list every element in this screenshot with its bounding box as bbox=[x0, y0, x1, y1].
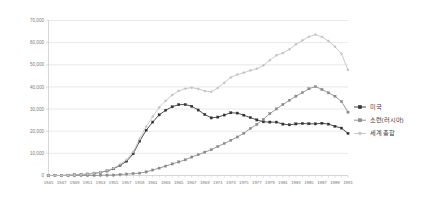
data-point-marker bbox=[327, 123, 329, 125]
data-point-marker bbox=[152, 169, 154, 171]
data-point-marker bbox=[171, 163, 173, 165]
data-point-marker bbox=[340, 127, 342, 129]
data-point-marker bbox=[288, 99, 290, 101]
data-point-marker bbox=[191, 156, 193, 158]
data-point-marker bbox=[210, 117, 212, 119]
y-axis-tick-label: 70,000 bbox=[30, 18, 44, 23]
data-point-marker bbox=[282, 103, 284, 105]
data-point-marker bbox=[249, 127, 251, 129]
legend-label: 미국 bbox=[370, 103, 382, 111]
y-axis-tick-label: 0 bbox=[41, 173, 44, 178]
x-axis-tick-label: 1957 bbox=[122, 180, 132, 185]
x-axis-tick-label: 1969 bbox=[200, 180, 210, 185]
data-point-marker bbox=[236, 112, 238, 114]
data-point-marker bbox=[301, 91, 303, 93]
x-axis-tick-label: 1945 bbox=[44, 180, 54, 185]
data-point-marker bbox=[178, 104, 180, 106]
x-axis-tick-label: 1991 bbox=[343, 180, 353, 185]
y-axis-tick-label: 20,000 bbox=[30, 129, 44, 134]
data-point-marker bbox=[145, 171, 147, 173]
data-point-marker bbox=[262, 121, 264, 123]
data-point-marker bbox=[327, 92, 329, 94]
x-axis-tick-label: 1989 bbox=[330, 180, 340, 185]
y-axis-tick-label: 40,000 bbox=[30, 85, 44, 90]
data-point-marker bbox=[301, 122, 303, 124]
y-axis-tick-label: 50,000 bbox=[30, 62, 44, 67]
data-point-marker bbox=[125, 173, 127, 175]
x-axis-tick-label: 1947 bbox=[57, 180, 67, 185]
data-point-marker bbox=[197, 154, 199, 156]
data-point-marker bbox=[210, 149, 212, 151]
data-point-marker bbox=[171, 106, 173, 108]
data-point-marker bbox=[314, 123, 316, 125]
data-point-marker bbox=[184, 159, 186, 161]
data-point-marker bbox=[223, 114, 225, 116]
x-axis-tick-label: 1963 bbox=[161, 180, 171, 185]
x-axis-tick-label: 1973 bbox=[226, 180, 236, 185]
y-axis-tick-label: 10,000 bbox=[30, 151, 44, 156]
data-point-marker bbox=[334, 95, 336, 97]
data-point-marker bbox=[197, 109, 199, 111]
data-point-marker bbox=[204, 113, 206, 115]
data-point-marker bbox=[178, 161, 180, 163]
data-point-marker bbox=[145, 129, 147, 131]
x-axis-tick-label: 1987 bbox=[317, 180, 327, 185]
data-point-marker bbox=[347, 132, 349, 134]
data-point-marker bbox=[288, 124, 290, 126]
x-axis-tick-label: 1967 bbox=[187, 180, 197, 185]
data-point-marker bbox=[321, 88, 323, 90]
data-point-marker bbox=[334, 125, 336, 127]
data-point-marker bbox=[295, 123, 297, 125]
data-point-marker bbox=[158, 114, 160, 116]
y-axis-tick-label: 30,000 bbox=[30, 107, 44, 112]
data-point-marker bbox=[308, 123, 310, 125]
data-point-marker bbox=[256, 119, 258, 121]
x-axis-tick-label: 1975 bbox=[239, 180, 249, 185]
legend-label: 세계 총합 bbox=[370, 129, 396, 137]
data-point-marker bbox=[191, 105, 193, 107]
data-point-marker bbox=[295, 95, 297, 97]
y-axis-tick-label: 60,000 bbox=[30, 40, 44, 45]
x-axis-tick-label: 1965 bbox=[174, 180, 184, 185]
data-point-marker bbox=[152, 121, 154, 123]
data-point-marker bbox=[256, 123, 258, 125]
data-point-marker bbox=[184, 103, 186, 105]
data-point-marker bbox=[139, 172, 141, 174]
data-point-marker bbox=[282, 123, 284, 125]
x-axis-tick-label: 1953 bbox=[96, 180, 106, 185]
x-axis-tick-label: 1981 bbox=[278, 180, 288, 185]
data-point-marker bbox=[112, 174, 114, 176]
legend-marker-icon bbox=[358, 105, 361, 108]
x-axis-tick-label: 1951 bbox=[83, 180, 93, 185]
legend-label: 소련(러시아) bbox=[370, 116, 404, 124]
data-point-marker bbox=[236, 136, 238, 138]
legend-marker-icon bbox=[358, 119, 361, 122]
data-point-marker bbox=[204, 151, 206, 153]
data-point-marker bbox=[106, 174, 108, 176]
x-axis-tick-label: 1955 bbox=[109, 180, 119, 185]
data-point-marker bbox=[119, 173, 121, 175]
data-point-marker bbox=[275, 121, 277, 123]
data-point-marker bbox=[269, 121, 271, 123]
x-axis-tick-label: 1977 bbox=[252, 180, 262, 185]
chart-container: 70,00060,00050,00040,00030,00020,00010,0… bbox=[0, 0, 425, 215]
x-axis-tick-label: 1979 bbox=[265, 180, 275, 185]
data-point-marker bbox=[217, 145, 219, 147]
data-point-marker bbox=[230, 139, 232, 141]
data-point-marker bbox=[99, 174, 101, 176]
data-point-marker bbox=[230, 112, 232, 114]
data-point-marker bbox=[217, 116, 219, 118]
data-point-marker bbox=[262, 118, 264, 120]
x-axis-tick-label: 1985 bbox=[304, 180, 314, 185]
x-axis-tick-label: 1961 bbox=[148, 180, 158, 185]
data-point-marker bbox=[347, 111, 349, 113]
x-axis-tick-label: 1983 bbox=[291, 180, 301, 185]
data-point-marker bbox=[243, 132, 245, 134]
data-point-marker bbox=[158, 167, 160, 169]
data-point-marker bbox=[269, 112, 271, 114]
data-point-marker bbox=[165, 165, 167, 167]
data-point-marker bbox=[314, 85, 316, 87]
data-point-marker bbox=[321, 122, 323, 124]
data-point-marker bbox=[249, 116, 251, 118]
data-point-marker bbox=[165, 109, 167, 111]
